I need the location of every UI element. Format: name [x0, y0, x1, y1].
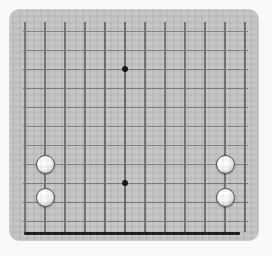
grid-line-vertical-1	[24, 22, 26, 232]
grid-line-horizontal-11	[23, 221, 248, 222]
page-root	[0, 0, 272, 256]
white-stone-left-upper[interactable]	[36, 155, 55, 174]
grid-line-horizontal-7	[23, 145, 248, 146]
grid-line-vertical-4	[84, 22, 86, 232]
grid-line-horizontal-8	[23, 164, 248, 165]
grid-line-horizontal-3	[23, 69, 248, 70]
grid-line-horizontal-1	[23, 31, 248, 32]
grid-line-vertical-9	[184, 22, 186, 232]
grid-line-vertical-12	[244, 22, 246, 232]
star-point-upper-center	[122, 66, 128, 72]
grid-line-horizontal-9	[23, 183, 248, 184]
grid-line-horizontal-4	[23, 88, 248, 89]
grid-line-horizontal-10	[23, 202, 248, 203]
grid-line-vertical-10	[204, 22, 206, 232]
go-board[interactable]	[10, 10, 258, 240]
white-stone-right-lower[interactable]	[216, 188, 235, 207]
grid-line-horizontal-5	[23, 107, 248, 108]
grid-line-vertical-6	[124, 22, 126, 232]
grid-line-vertical-7	[144, 22, 146, 232]
white-stone-right-upper[interactable]	[216, 155, 235, 174]
grid-line-vertical-3	[64, 22, 66, 232]
white-stone-left-lower[interactable]	[36, 188, 55, 207]
star-point-lower-center	[122, 180, 128, 186]
grid-line-vertical-8	[164, 22, 166, 232]
board-bottom-boundary	[24, 232, 240, 235]
grid-line-horizontal-6	[23, 126, 248, 127]
grid-line-vertical-5	[104, 22, 106, 232]
grid-line-horizontal-2	[23, 50, 248, 51]
